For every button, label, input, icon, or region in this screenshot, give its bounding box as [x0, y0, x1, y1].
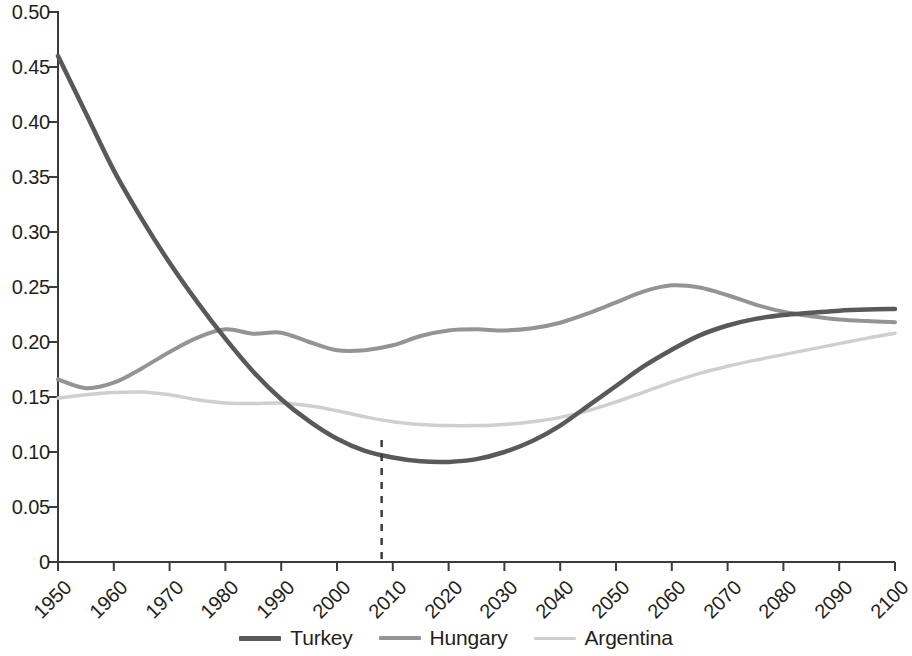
y-axis-tick-label: 0.05 — [0, 496, 50, 519]
y-axis-tick-label: 0.30 — [0, 221, 50, 244]
chart-legend: TurkeyHungaryArgentina — [0, 626, 912, 650]
legend-label: Hungary — [430, 626, 508, 650]
series-line-argentina — [58, 333, 895, 426]
y-axis-tick-label: 0.35 — [0, 166, 50, 189]
y-axis-tick-label: 0.50 — [0, 1, 50, 24]
series-line-hungary — [58, 285, 895, 388]
legend-item-turkey[interactable]: Turkey — [239, 626, 352, 650]
legend-label: Turkey — [290, 626, 352, 650]
y-axis-tick-label: 0.15 — [0, 386, 50, 409]
legend-swatch-icon — [239, 636, 281, 641]
y-axis-tick-label: 0.25 — [0, 276, 50, 299]
chart-axes — [49, 11, 895, 571]
legend-label: Argentina — [585, 626, 673, 650]
series-line-turkey — [58, 56, 895, 462]
y-axis-tick-label: 0.10 — [0, 441, 50, 464]
y-axis-tick-label: 0.20 — [0, 331, 50, 354]
legend-item-argentina[interactable]: Argentina — [534, 626, 673, 650]
line-chart: 00.050.100.150.200.250.300.350.400.450.5… — [0, 0, 912, 656]
y-axis-tick-label: 0.45 — [0, 56, 50, 79]
chart-plot-area — [0, 0, 912, 656]
legend-swatch-icon — [379, 636, 421, 640]
legend-swatch-icon — [534, 637, 576, 640]
chart-series-group — [58, 56, 895, 462]
legend-item-hungary[interactable]: Hungary — [379, 626, 508, 650]
y-axis-tick-label: 0.40 — [0, 111, 50, 134]
y-axis-tick-label: 0 — [0, 551, 50, 574]
